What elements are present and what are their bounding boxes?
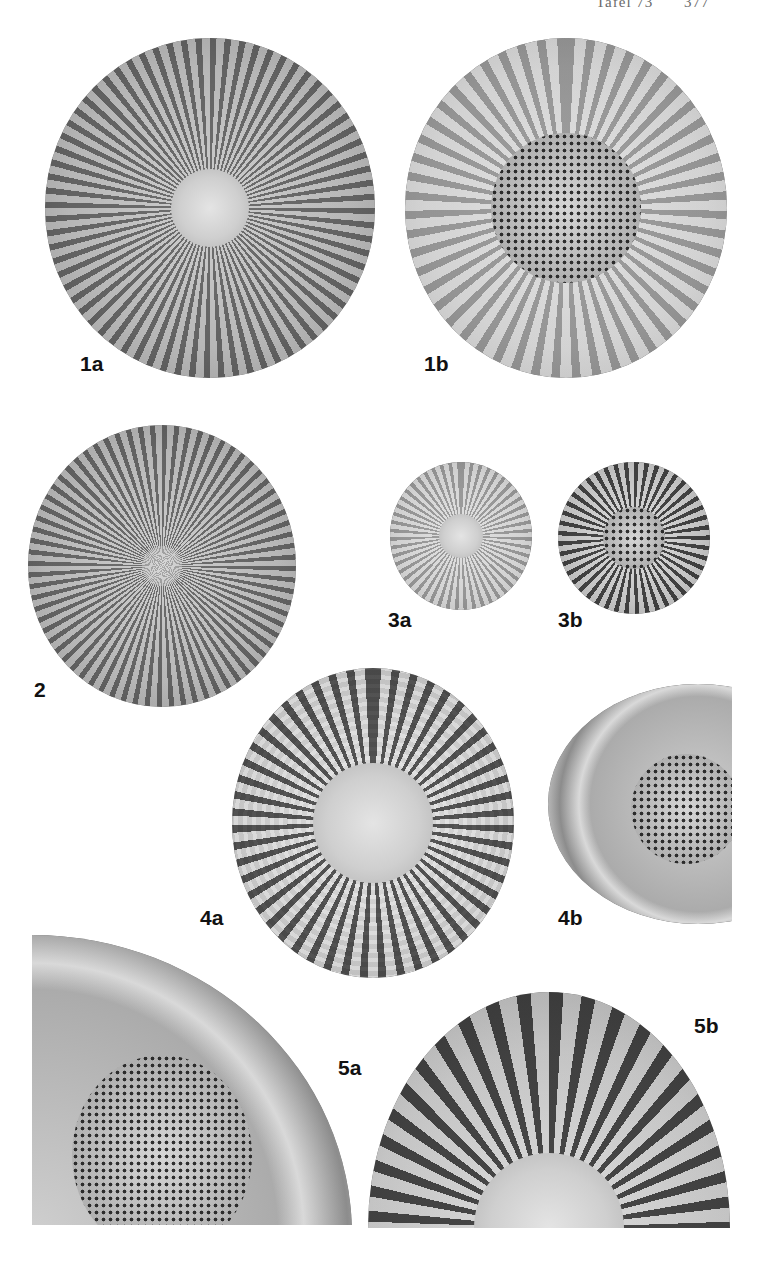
figure-5b-frame: [368, 992, 730, 1228]
figure-4b-image: [548, 684, 732, 924]
central-area: [171, 169, 249, 247]
figure-label-5a: 5a: [338, 1056, 361, 1080]
figure-4b-frame: [548, 684, 732, 924]
figure-2-image: [28, 425, 296, 707]
figure-5a-image: [32, 935, 352, 1225]
figure-label-2: 2: [34, 678, 46, 702]
figure-3a-image: [390, 462, 532, 610]
central-area: [142, 546, 182, 586]
figure-label-1a: 1a: [80, 352, 103, 376]
figure-label-4b: 4b: [558, 906, 583, 930]
central-area: [439, 514, 483, 558]
figure-label-3a: 3a: [388, 608, 411, 632]
figure-1b-image: [405, 38, 727, 378]
plate-number: Tafel 73: [596, 0, 653, 10]
figure-5a-frame: [32, 935, 352, 1225]
page-header: Tafel 73 377: [596, 0, 736, 11]
page-number: 377: [684, 0, 710, 10]
figure-label-1b: 1b: [424, 352, 449, 376]
central-area: [603, 507, 665, 569]
figure-label-4a: 4a: [200, 906, 223, 930]
figure-label-5b: 5b: [694, 1014, 719, 1038]
figure-4a-image: [232, 668, 514, 978]
figure-5b-image: [368, 992, 730, 1228]
central-area: [313, 763, 433, 883]
figure-label-3b: 3b: [558, 608, 583, 632]
central-area: [491, 133, 641, 283]
central-area: [631, 754, 732, 864]
figure-1a-image: [45, 38, 375, 378]
figure-3b-image: [558, 462, 710, 614]
